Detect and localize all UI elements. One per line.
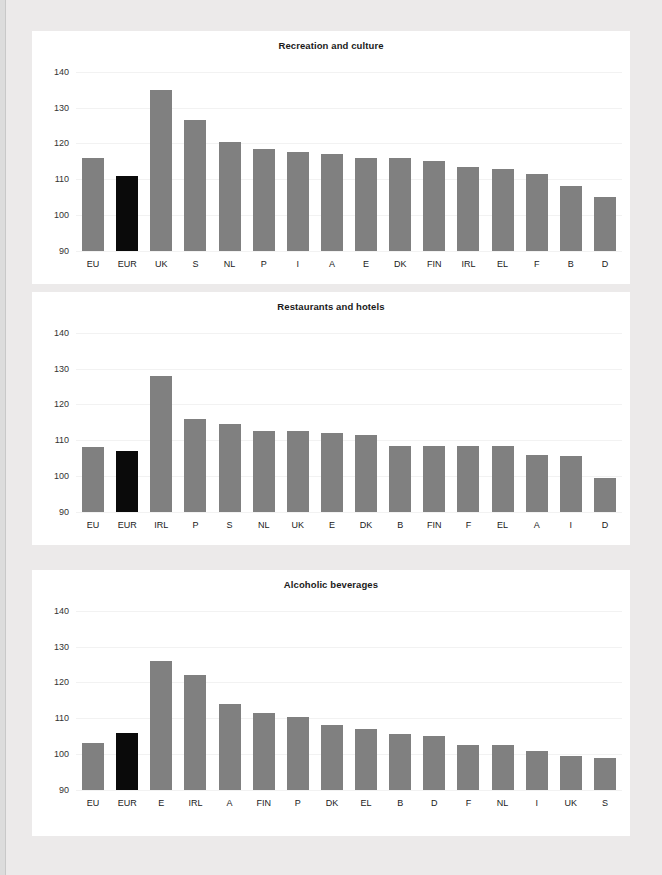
bar-slot [554,600,588,790]
bar-f [457,446,479,512]
chart-title: Recreation and culture [32,40,630,51]
bar-d [594,478,616,512]
x-axis-tick-label: P [247,259,281,269]
x-axis-tick-label: FIN [247,798,281,808]
bar-p [184,419,206,512]
bar-series [76,600,622,790]
x-axis-tick-label: DK [349,520,383,530]
bar-slot [520,61,554,251]
x-axis-tick-label: E [315,520,349,530]
x-axis-tick-label: D [588,259,622,269]
page-root: Recreation and culture 90100110120130140… [0,0,662,875]
y-axis-tick-label: 130 [54,364,69,374]
bar-s [184,120,206,251]
x-axis-tick-label: NL [247,520,281,530]
bar-slot [417,61,451,251]
y-axis-tick-label: 90 [59,246,69,256]
bar-slot [451,600,485,790]
bar-slot [178,322,212,512]
bar-slot [417,600,451,790]
y-axis-tick-label: 130 [54,642,69,652]
x-axis-tick-label: B [383,798,417,808]
x-axis-tick-label: IRL [144,520,178,530]
x-axis-tick-label: EUR [110,259,144,269]
bar-slot [349,322,383,512]
bar-e [321,433,343,512]
x-axis-tick-label: A [315,259,349,269]
bar-slot [213,600,247,790]
x-axis-tick-label: S [178,259,212,269]
x-axis-tick-label: UK [144,259,178,269]
bar-f [526,174,548,251]
bar-b [389,734,411,790]
bar-irl [184,675,206,790]
bar-uk [560,756,582,790]
bar-el [355,729,377,790]
bar-slot [315,600,349,790]
bar-a [219,704,241,790]
gridline [76,512,622,513]
bar-slot [144,600,178,790]
bar-nl [219,142,241,251]
bar-s [219,424,241,512]
bar-eur [116,176,138,251]
x-axis-tick-label: P [178,520,212,530]
bar-nl [492,745,514,790]
x-axis-tick-label: NL [213,259,247,269]
y-axis-tick-label: 90 [59,507,69,517]
x-axis-tick-label: EU [76,520,110,530]
bar-slot [520,600,554,790]
x-axis-tick-label: F [520,259,554,269]
bar-series [76,322,622,512]
plot-area: 90100110120130140 [76,61,622,251]
bar-nl [253,431,275,512]
bar-fin [253,713,275,790]
x-axis-tick-label: I [281,259,315,269]
x-axis-tick-label: NL [486,798,520,808]
gridline [76,790,622,791]
x-axis-tick-label: UK [554,798,588,808]
bar-slot [315,322,349,512]
x-axis-tick-label: UK [281,520,315,530]
chart-panel-alcoholic-beverages: Alcoholic beverages 90100110120130140 EU… [32,570,630,836]
bar-slot [486,600,520,790]
bar-irl [150,376,172,512]
bar-slot [76,600,110,790]
bar-slot [281,61,315,251]
bar-slot [110,322,144,512]
bar-slot [110,600,144,790]
bar-slot [144,61,178,251]
bar-p [287,717,309,790]
chart-panel-recreation-and-culture: Recreation and culture 90100110120130140… [32,31,630,284]
bar-d [423,736,445,790]
bar-slot [76,61,110,251]
bar-slot [417,322,451,512]
bar-slot [281,322,315,512]
bar-eur [116,451,138,512]
y-axis-tick-label: 100 [54,210,69,220]
bar-i [287,152,309,251]
x-axis-tick-label: EU [76,798,110,808]
x-axis-tick-label: DK [315,798,349,808]
bar-slot [76,322,110,512]
bar-a [526,455,548,512]
x-axis-tick-label: A [213,798,247,808]
bar-fin [423,446,445,512]
bar-slot [383,600,417,790]
x-axis-tick-label: B [383,520,417,530]
x-axis-labels: EUEUREIRLAFINPDKELBDFNLIUKS [76,798,622,808]
bar-b [560,186,582,251]
bar-uk [150,90,172,251]
bar-slot [315,61,349,251]
bar-slot [451,322,485,512]
x-axis-tick-label: F [451,798,485,808]
x-axis-tick-label: IRL [178,798,212,808]
bar-slot [554,61,588,251]
chart-panel-restaurants-and-hotels: Restaurants and hotels 90100110120130140… [32,292,630,545]
x-axis-tick-label: D [417,798,451,808]
bar-el [492,446,514,512]
plot-area: 90100110120130140 [76,322,622,512]
bar-dk [355,435,377,512]
bar-slot [247,61,281,251]
y-axis-tick-label: 110 [55,174,69,184]
